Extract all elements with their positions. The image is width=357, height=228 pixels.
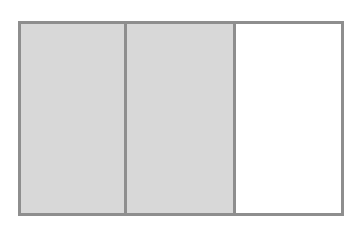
fraction-bar	[18, 21, 344, 216]
shaded-cell	[124, 24, 233, 213]
diagram-canvas	[0, 0, 357, 228]
shaded-cell	[21, 24, 124, 213]
unshaded-cell	[233, 24, 341, 213]
